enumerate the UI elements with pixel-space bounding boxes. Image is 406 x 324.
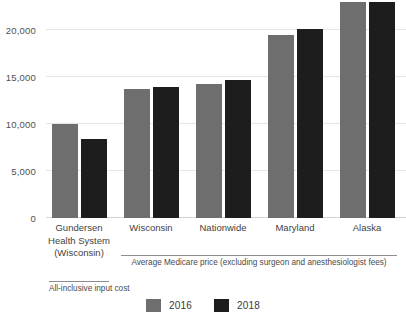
- bar-2018: [369, 2, 395, 218]
- bar-2018: [153, 87, 179, 218]
- plot-area: [46, 0, 406, 219]
- group-bracket-rule: [121, 255, 397, 256]
- x-category-label-line: Alaska: [331, 222, 403, 235]
- legend-item-2018: 2018: [214, 299, 260, 312]
- x-category-label-line: Wisconsin: [115, 222, 187, 235]
- bar-2016: [52, 124, 78, 218]
- x-category-label-line: Nationwide: [187, 222, 259, 235]
- bar-2018: [225, 80, 251, 218]
- x-axis: GundersenHealth System(Wisconsin)Wiscons…: [46, 219, 406, 279]
- y-tick-label: 10,000: [6, 119, 36, 130]
- y-tick-label: 5,000: [11, 166, 36, 177]
- x-category-label: Nationwide: [187, 222, 259, 235]
- x-category-label: Alaska: [331, 222, 403, 235]
- group-bracket-rule: [49, 281, 109, 282]
- legend: 2016 2018: [0, 294, 406, 316]
- bar-2016: [340, 2, 366, 218]
- group-caption: All-inclusive input cost: [49, 284, 109, 294]
- bar-chart: 20,000 15,000 10,000 5,000 0 GundersenHe…: [0, 0, 406, 324]
- y-tick-label: 15,000: [6, 72, 36, 83]
- bar-2016: [124, 89, 150, 218]
- legend-label: 2016: [169, 300, 192, 311]
- group-caption: Average Medicare price (excluding surgeo…: [121, 258, 397, 268]
- bar-series-group: [46, 0, 406, 219]
- legend-swatch-icon: [146, 299, 161, 312]
- x-category-label-line: Maryland: [259, 222, 331, 235]
- legend-item-2016: 2016: [146, 299, 192, 312]
- x-category-label-line: Gundersen: [43, 222, 115, 235]
- x-category-label-line: Health System: [43, 235, 115, 248]
- bar-2018: [81, 139, 107, 218]
- bar-2016: [268, 35, 294, 218]
- legend-swatch-icon: [214, 299, 229, 312]
- y-axis: 20,000 15,000 10,000 5,000 0: [0, 0, 44, 219]
- x-category-label: Maryland: [259, 222, 331, 235]
- y-tick-label: 20,000: [6, 25, 36, 36]
- x-category-label: Wisconsin: [115, 222, 187, 235]
- y-tick-label: 0: [31, 213, 36, 224]
- bar-2016: [196, 84, 222, 218]
- legend-label: 2018: [237, 300, 260, 311]
- x-category-label-line: (Wisconsin): [43, 247, 115, 260]
- bar-2018: [297, 29, 323, 218]
- x-category-label: GundersenHealth System(Wisconsin): [43, 222, 115, 260]
